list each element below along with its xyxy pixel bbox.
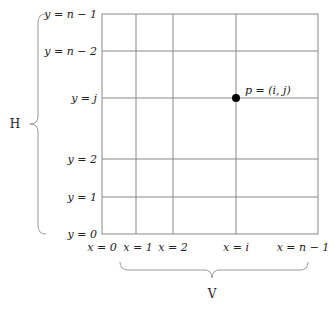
brace-horizontal-icon [120, 262, 308, 278]
y-label-2: y = 2 [67, 153, 97, 166]
grid-diagram: p = (i, j) y = n − 1 y = n − 2 y = j y =… [0, 0, 335, 315]
y-label-1: y = 1 [67, 191, 97, 204]
x-label-0: x = 0 [87, 241, 116, 254]
x-label-i: x = i [223, 241, 249, 254]
grid-border [102, 14, 318, 234]
brace-label-h: H [10, 117, 20, 131]
grid-canvas: p = (i, j) y = n − 1 y = n − 2 y = j y =… [0, 0, 335, 315]
point-p [232, 94, 240, 102]
y-label-0: y = 0 [67, 228, 97, 241]
brace-label-v: V [207, 287, 217, 301]
x-label-n1: x = n − 1 [277, 241, 330, 254]
point-label: p = (i, j) [245, 84, 291, 97]
x-label-1: x = 1 [123, 241, 152, 254]
y-label-n1: y = n − 1 [43, 8, 97, 21]
x-label-2: x = 2 [158, 241, 187, 254]
y-label-n2: y = n − 2 [43, 45, 97, 58]
y-label-j: y = j [70, 92, 97, 105]
